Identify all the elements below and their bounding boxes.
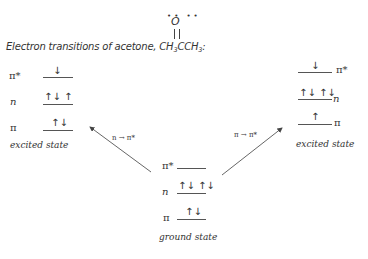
level-label-n: n [162,186,168,197]
level-label-pi: π [10,122,17,133]
electron-arrows: ↓ [311,61,319,71]
energy-level-line [298,99,332,100]
state-caption: excited state [10,140,68,150]
level-label-pi-star: π* [336,64,348,75]
electron-arrows: ↑↓ [185,207,202,217]
energy-level-line [298,72,332,73]
state-caption: ground state [159,232,217,242]
transition-label-pi-pi-star: π → π* [234,131,257,139]
electron-arrows: ↑↓ ↑ [44,92,72,102]
energy-level-line [177,219,206,220]
energy-level-line [43,104,73,105]
electron-arrows: ↑↓ ↑↓ [299,88,336,98]
energy-level-line [177,193,206,194]
level-label-n: n [10,96,16,107]
level-label-pi-star: π* [9,70,21,81]
electron-arrows: ↑ [311,112,319,122]
energy-level-line [298,124,332,125]
level-label-pi: π [334,117,341,128]
electron-arrows: ↑↓ [51,118,68,128]
level-label-n: n [333,93,339,104]
energy-level-line [43,77,73,78]
transition-label-n-pi-star: n → π* [112,134,135,142]
level-label-pi: π [163,212,170,223]
level-label-pi-star: π* [162,160,174,171]
electron-arrows: ↓ [53,66,61,76]
energy-level-line [43,130,73,131]
electron-arrows: ↑↓ ↑↓ [178,181,215,191]
energy-level-line [177,168,206,169]
state-caption: excited state [296,139,354,149]
